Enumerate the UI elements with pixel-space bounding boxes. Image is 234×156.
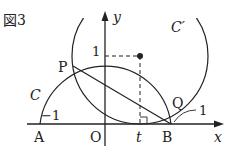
- figure-title: 図3: [3, 12, 26, 28]
- x-axis-arrow-icon: [214, 121, 224, 128]
- label-p: P: [58, 59, 67, 75]
- label-o: O: [90, 129, 101, 145]
- tick-y-one: 1: [92, 44, 100, 59]
- x-axis-label: x: [214, 129, 222, 145]
- segment-pb: [73, 66, 171, 124]
- label-q: Q: [172, 95, 183, 111]
- y-axis-arrow-icon: [102, 11, 109, 21]
- center-dot: [137, 53, 143, 59]
- leader-line: [174, 110, 196, 122]
- label-c-prime: C′: [171, 19, 186, 35]
- y-axis-label: y: [112, 9, 122, 25]
- figure-3-diagram: 図3 y C′ P 1 C −1 Q 1 A O t B x: [0, 0, 234, 156]
- label-t: t: [136, 129, 142, 145]
- tick-one: 1: [199, 103, 207, 118]
- label-c: C: [30, 87, 41, 103]
- tick-neg-one: −1: [41, 108, 60, 123]
- label-a: A: [33, 129, 45, 145]
- right-angle-mark: [140, 117, 147, 124]
- label-b: B: [162, 129, 172, 145]
